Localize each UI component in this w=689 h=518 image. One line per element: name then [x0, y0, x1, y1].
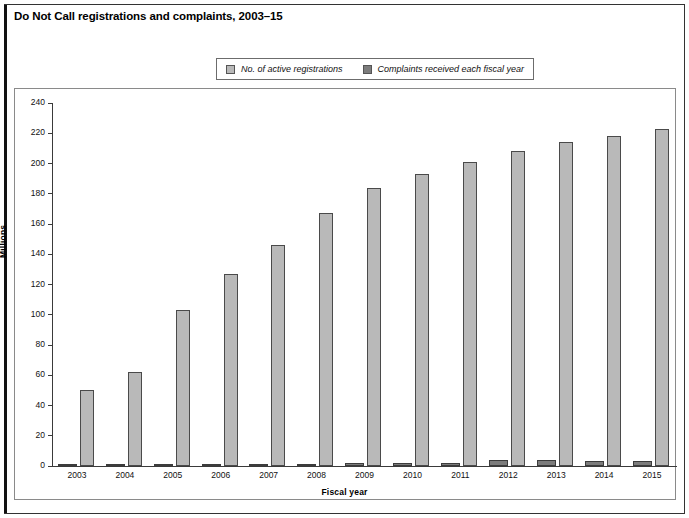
bar-registrations [176, 310, 190, 466]
bar-registrations [607, 136, 621, 466]
x-axis-tick-label: 2011 [436, 470, 484, 480]
x-axis-tick-label: 2010 [388, 470, 436, 480]
bar-group [580, 103, 628, 466]
bar-complaints [297, 464, 316, 466]
bar-complaints [58, 464, 77, 466]
bar-registrations [224, 274, 238, 466]
bar-complaints [633, 461, 652, 466]
bar-registrations [463, 162, 477, 466]
bar-registrations [128, 372, 142, 466]
y-axis-tick-label: 140 [31, 248, 45, 258]
bar-complaints [249, 464, 268, 466]
bar-registrations [511, 151, 525, 466]
bar-registrations [655, 129, 669, 466]
bar-group [388, 103, 436, 466]
page-frame-left-rule [4, 4, 7, 514]
x-axis-tick-label: 2013 [532, 470, 580, 480]
y-axis-tick-label: 120 [31, 279, 45, 289]
bar-group [245, 103, 293, 466]
y-axis-tick-mark [48, 254, 52, 255]
bar-registrations [319, 213, 333, 466]
x-axis-tick-label: 2014 [580, 470, 628, 480]
bar-complaints [489, 460, 508, 466]
x-axis-tick-label: 2003 [53, 470, 101, 480]
bar-group [149, 103, 197, 466]
y-axis-tick-label: 0 [40, 460, 45, 470]
y-axis-tick-label: 200 [31, 158, 45, 168]
bar-complaints [202, 464, 221, 466]
bar-registrations [80, 390, 94, 466]
page-frame-right-rule [684, 4, 685, 514]
bar-complaints [585, 461, 604, 466]
y-axis-tick-mark [48, 163, 52, 164]
bar-registrations [415, 174, 429, 466]
bar-complaints [441, 463, 460, 466]
y-axis-tick-mark [48, 284, 52, 285]
bar-group [436, 103, 484, 466]
bar-group [532, 103, 580, 466]
x-axis-tick-label: 2005 [149, 470, 197, 480]
bar-complaints [393, 463, 412, 466]
y-axis-tick-mark [48, 466, 52, 467]
y-axis-tick-mark [48, 314, 52, 315]
bar-group [101, 103, 149, 466]
y-axis-tick-label: 20 [36, 430, 45, 440]
y-axis-title: Millions [0, 225, 8, 258]
y-axis-tick-mark [48, 224, 52, 225]
y-axis-tick-label: 180 [31, 188, 45, 198]
x-axis-tick-label: 2009 [341, 470, 389, 480]
page-frame-bottom-rule [4, 513, 685, 514]
y-axis-tick-label: 160 [31, 218, 45, 228]
bar-group [197, 103, 245, 466]
x-axis-tick-label: 2007 [245, 470, 293, 480]
legend-label-registrations: No. of active registrations [241, 65, 343, 74]
x-axis-tick-label: 2015 [628, 470, 676, 480]
bar-group [53, 103, 101, 466]
bar-complaints [537, 460, 556, 466]
y-axis-tick-mark [48, 345, 52, 346]
page-frame-top-rule [4, 4, 685, 5]
y-axis-tick-mark [48, 435, 52, 436]
x-axis-tick-labels: 2003200420052006200720082009201020112012… [53, 470, 676, 484]
x-axis-title: Fiscal year [0, 487, 689, 497]
bar-complaints [154, 464, 173, 466]
bar-registrations [367, 188, 381, 466]
y-axis-tick-label: 80 [36, 339, 45, 349]
chart-page: Do Not Call registrations and complaints… [0, 0, 689, 518]
bar-group [341, 103, 389, 466]
bar-group [484, 103, 532, 466]
y-axis-tick-label: 60 [36, 369, 45, 379]
x-axis-tick-label: 2012 [484, 470, 532, 480]
chart-title: Do Not Call registrations and complaints… [14, 10, 283, 22]
x-axis-tick-label: 2004 [101, 470, 149, 480]
y-axis-tick-label: 240 [31, 97, 45, 107]
y-axis-tick-mark [48, 405, 52, 406]
bar-complaints [345, 463, 364, 466]
y-axis-tick-mark [48, 103, 52, 104]
bar-registrations [271, 245, 285, 466]
y-axis-tick-mark [48, 193, 52, 194]
bar-group [293, 103, 341, 466]
bar-series-layer [53, 103, 676, 466]
y-axis-tick-label: 40 [36, 400, 45, 410]
bar-registrations [559, 142, 573, 466]
legend-label-complaints: Complaints received each fiscal year [378, 65, 525, 74]
bar-complaints [106, 464, 125, 466]
legend-swatch-complaints-icon [363, 65, 372, 74]
legend-swatch-registrations-icon [226, 65, 235, 74]
y-axis-tick-label: 100 [31, 309, 45, 319]
x-axis-tick-label: 2008 [293, 470, 341, 480]
legend-item-complaints: Complaints received each fiscal year [363, 65, 525, 74]
chart-legend: No. of active registrations Complaints r… [216, 58, 534, 80]
y-axis-tick-label: 220 [31, 127, 45, 137]
legend-item-registrations: No. of active registrations [226, 65, 343, 74]
y-axis-tick-mark [48, 375, 52, 376]
y-axis-tick-mark [48, 133, 52, 134]
x-axis-tick-label: 2006 [197, 470, 245, 480]
bar-group [628, 103, 676, 466]
